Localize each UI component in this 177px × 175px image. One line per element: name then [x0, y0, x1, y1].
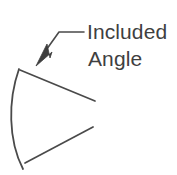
diagram-canvas: Included Angle — [0, 0, 177, 175]
included-angle-figure: Included Angle — [0, 0, 177, 175]
annotation-line-1: Included — [87, 20, 167, 43]
annotation-line-2: Angle — [88, 47, 142, 70]
